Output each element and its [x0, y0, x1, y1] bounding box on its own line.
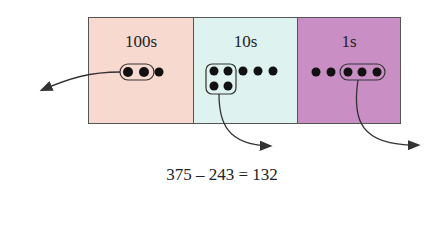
tens-counters	[206, 64, 278, 94]
tens-arrow	[219, 94, 270, 146]
hundreds-arrow	[42, 72, 120, 90]
hundreds-counters	[120, 64, 164, 80]
ones-counters	[312, 64, 386, 80]
ones-arrow	[356, 80, 418, 145]
equation: 375 – 243 = 132	[0, 165, 432, 185]
